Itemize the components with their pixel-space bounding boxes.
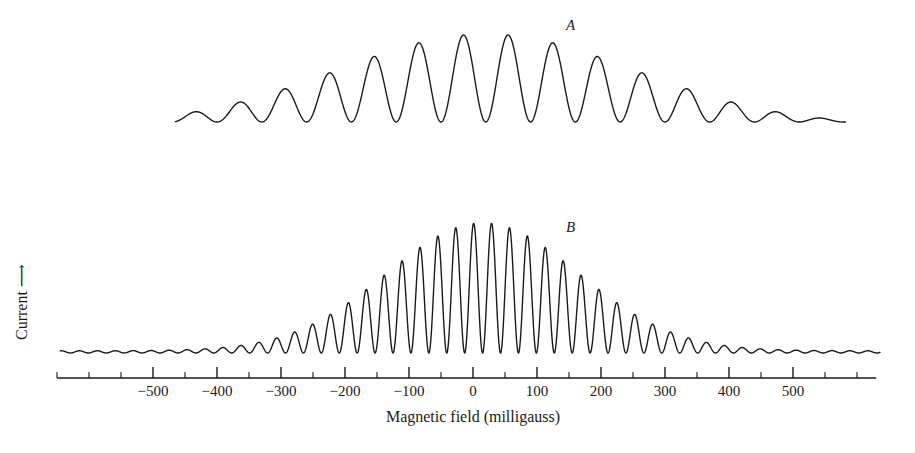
curve-label-a: A (566, 18, 575, 33)
x-axis-tick-label: −300 (266, 384, 297, 399)
curve-label-b: B (566, 220, 575, 235)
figure-container: A B −500−400−300−200−1000100200300400500… (0, 0, 915, 453)
x-axis-tick-label: −100 (394, 384, 425, 399)
x-axis-tick-label: −500 (138, 384, 169, 399)
x-axis-tick-label: 300 (654, 384, 677, 399)
x-axis-tick-label: −200 (330, 384, 361, 399)
x-axis-tick-label: 200 (590, 384, 613, 399)
y-axis-title: Current ⟶ (14, 150, 30, 340)
x-axis (57, 367, 876, 378)
x-axis-tick-label: −400 (202, 384, 233, 399)
x-axis-tick-label: 500 (782, 384, 805, 399)
x-axis-tick-label: 0 (469, 384, 477, 399)
curve-a-trace (175, 35, 845, 122)
x-axis-title: Magnetic field (milligauss) (386, 408, 560, 426)
x-axis-tick-label: 100 (526, 384, 549, 399)
curve-b-trace (60, 223, 880, 353)
x-axis-ticks (57, 367, 857, 378)
x-axis-tick-label: 400 (718, 384, 741, 399)
y-axis-title-text: Current (13, 291, 30, 340)
y-axis-arrow-icon: ⟶ (13, 265, 30, 287)
